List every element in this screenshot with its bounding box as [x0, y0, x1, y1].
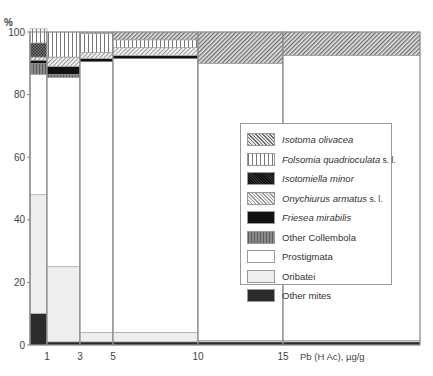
legend-label: Isotomiella minor	[282, 173, 354, 184]
bar-segment	[47, 74, 80, 77]
x-tick-label: 3	[77, 351, 83, 362]
bar-segment	[30, 57, 47, 60]
y-ticks: 020406080100	[8, 27, 30, 351]
bar-segment	[113, 55, 198, 58]
y-tick-label: 40	[14, 214, 26, 225]
y-tick-label: 100	[8, 27, 25, 38]
x-tick-label: 5	[110, 351, 116, 362]
legend-label: Isotoma olivacea	[282, 134, 353, 145]
bar-segment	[80, 52, 113, 58]
legend-item: Isotoma olivacea	[247, 130, 391, 150]
bar-segment	[47, 267, 80, 342]
bar-segment	[113, 332, 198, 341]
x-axis-title: Pb (H Ac), µg/g	[300, 351, 365, 362]
bar-segment	[47, 57, 80, 66]
bar-segment	[80, 34, 113, 53]
legend-label: Folsomia quadrioculata s. l.	[282, 154, 396, 165]
bar-segment	[113, 40, 198, 48]
legend-label: Other mites	[282, 290, 331, 301]
bar-segment	[30, 314, 47, 345]
bar-segment	[80, 62, 113, 333]
bar-segment	[283, 32, 420, 55]
legend-swatch	[247, 211, 275, 224]
legend-swatch	[247, 231, 275, 244]
legend-swatch	[247, 250, 275, 263]
legend-swatch	[247, 270, 275, 283]
legend-item: Onychiurus armatus s. l.	[247, 189, 391, 209]
legend-item: Friesea mirabilis	[247, 208, 391, 228]
legend-item: Oribatei	[247, 267, 391, 287]
x-tick-label: 15	[277, 351, 289, 362]
bar-segment	[80, 59, 113, 62]
x-tick-label: 10	[192, 351, 204, 362]
legend-swatch	[247, 172, 275, 185]
legend-label: Onychiurus armatus s. l.	[282, 193, 383, 204]
legend-item: Other Collembola	[247, 228, 391, 248]
bar-segment	[47, 77, 80, 266]
y-axis-unit: %	[4, 17, 13, 28]
bar-segment	[80, 332, 113, 341]
x-ticks: 1351015	[44, 351, 289, 362]
y-tick-label: 60	[14, 152, 26, 163]
legend-swatch	[247, 153, 275, 166]
legend-item: Other mites	[247, 286, 391, 306]
legend-label: Prostigmata	[282, 251, 333, 262]
y-tick-label: 20	[14, 277, 26, 288]
bar-segment	[30, 74, 47, 195]
y-tick-label: 80	[14, 89, 26, 100]
bar-segment	[113, 48, 198, 56]
legend-label: Oribatei	[282, 271, 315, 282]
bar-segment	[30, 29, 47, 43]
legend-item: Folsomia quadrioculata s. l.	[247, 150, 391, 170]
bar-segment	[30, 195, 47, 314]
bar-segment	[47, 66, 80, 74]
bar-segment	[30, 43, 47, 57]
x-tick-label: 1	[44, 351, 50, 362]
legend: Isotoma olivaceaFolsomia quadrioculata s…	[240, 123, 392, 285]
y-tick-label: 0	[19, 340, 25, 351]
bar-segment	[113, 59, 198, 333]
legend-item: Prostigmata	[247, 247, 391, 267]
legend-swatch	[247, 133, 275, 146]
legend-item: Isotomiella minor	[247, 169, 391, 189]
legend-swatch	[247, 192, 275, 205]
bar-segment	[30, 63, 47, 74]
bar-segment	[113, 32, 198, 40]
bar-segment	[198, 32, 283, 63]
bar-segment	[30, 60, 47, 63]
legend-label: Friesea mirabilis	[282, 212, 351, 223]
legend-label: Other Collembola	[282, 232, 356, 243]
bar-segment	[47, 32, 80, 57]
legend-swatch	[247, 289, 275, 302]
